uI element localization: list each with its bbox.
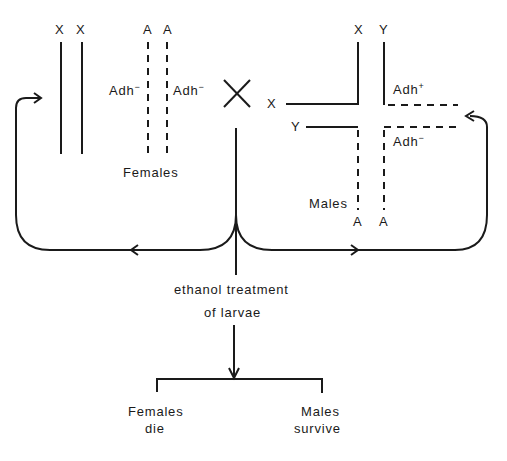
treatment-line-2: of larvae [204,305,261,320]
male-allele-plus: Adh+ [393,81,425,97]
treatment-line-1: ethanol treatment [174,282,289,297]
outcome-females-line-1: Females [128,404,183,419]
outcome-bracket: Females die Males survive [128,379,341,436]
female-x-chromosomes: X X [55,22,85,154]
female-allele-left: Adh− [109,82,141,98]
female-a-label-1: A [143,22,152,37]
treatment-step: ethanol treatment of larvae [174,215,289,378]
male-x-top-label: X [354,22,363,37]
diagram-canvas: X X A A Adh− Adh− Females X Y X Adh+ Y A… [0,0,507,461]
backcross-loop [16,93,487,255]
female-a-label-2: A [163,22,172,37]
female-autosomes: A A Adh− Adh− Females [109,22,205,180]
male-a-bottom-label-1: A [353,214,362,229]
male-chromosomes: X Y X Adh+ Y Adh− Males A A [267,22,458,229]
cross-symbol-icon [224,80,250,107]
female-x-label-1: X [55,22,64,37]
male-y-left-label: Y [291,119,300,134]
male-x-left-label: X [267,96,276,111]
outcome-males-line-1: Males [301,404,340,419]
outcome-females-line-2: die [145,421,165,436]
male-a-bottom-label-2: A [379,214,388,229]
female-x-label-2: X [76,22,85,37]
female-allele-right: Adh− [173,82,205,98]
males-label: Males [309,196,348,211]
outcome-males-line-2: survive [294,421,341,436]
females-label: Females [123,165,178,180]
male-y-top-label: Y [379,22,388,37]
male-allele-minus: Adh− [393,133,425,149]
